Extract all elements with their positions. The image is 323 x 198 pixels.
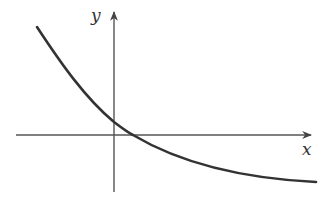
y-axis-label: y bbox=[91, 7, 101, 24]
function-curve bbox=[37, 27, 316, 182]
function-graph: y x bbox=[0, 0, 323, 198]
graph-svg bbox=[0, 0, 323, 198]
x-axis-label: x bbox=[302, 141, 312, 158]
